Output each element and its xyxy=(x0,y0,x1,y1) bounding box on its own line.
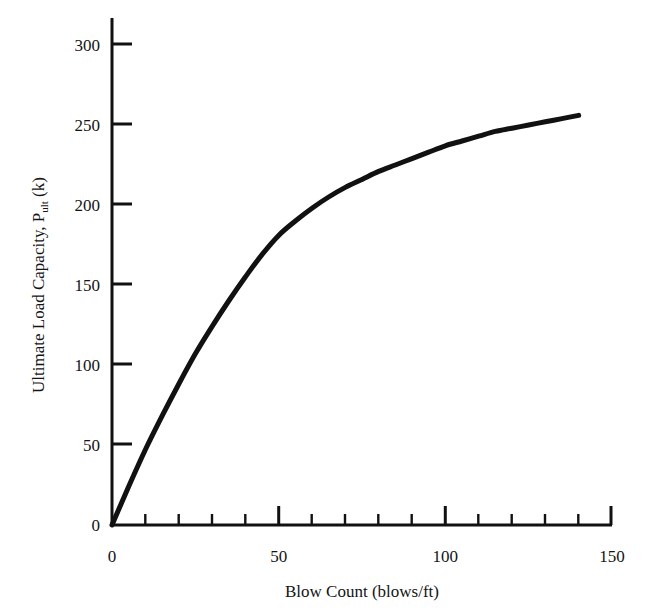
y-axis: 300 250 200 150 100 50 0 Ultimate Load C… xyxy=(29,18,132,535)
svg-text:Ultimate Load Capacity, Pult (: Ultimate Load Capacity, Pult (k) xyxy=(29,177,50,393)
x-tick-label-100: 100 xyxy=(433,547,459,566)
y-tick-label-100: 100 xyxy=(75,356,101,375)
y-axis-title-subscript: ult xyxy=(38,201,50,213)
x-axis-minor-ticks xyxy=(145,514,578,525)
y-axis-title: Ultimate Load Capacity, Pult (k) xyxy=(29,177,50,393)
y-tick-label-150: 150 xyxy=(75,276,101,295)
y-axis-title-unit: (k) xyxy=(29,177,48,201)
y-tick-label-200: 200 xyxy=(75,196,101,215)
x-axis: 0 50 100 150 Blow Count (blows/ft) xyxy=(108,506,625,601)
data-curve-load-vs-blowcount xyxy=(112,115,579,525)
chart-plot: 300 250 200 150 100 50 0 Ultimate Load C… xyxy=(0,0,653,616)
y-axis-title-main: Ultimate Load Capacity, P xyxy=(29,213,48,393)
y-tick-label-250: 250 xyxy=(75,116,101,135)
y-tick-label-300: 300 xyxy=(75,36,101,55)
y-tick-label-50: 50 xyxy=(83,436,100,455)
figure-page: 300 250 200 150 100 50 0 Ultimate Load C… xyxy=(0,0,653,616)
y-tick-label-0: 0 xyxy=(92,516,101,535)
x-axis-title: Blow Count (blows/ft) xyxy=(285,582,439,601)
x-axis-major-ticks xyxy=(279,506,611,525)
x-tick-label-50: 50 xyxy=(270,547,287,566)
x-tick-label-150: 150 xyxy=(599,547,625,566)
y-axis-ticks xyxy=(112,44,132,444)
x-tick-label-0: 0 xyxy=(108,547,117,566)
